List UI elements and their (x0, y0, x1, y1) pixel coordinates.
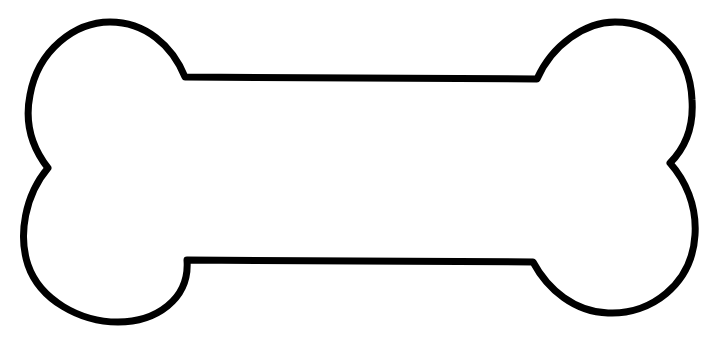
bone-illustration: bone outline (0, 0, 717, 347)
bone-shape (24, 22, 696, 322)
bone-outline-icon (0, 0, 717, 347)
